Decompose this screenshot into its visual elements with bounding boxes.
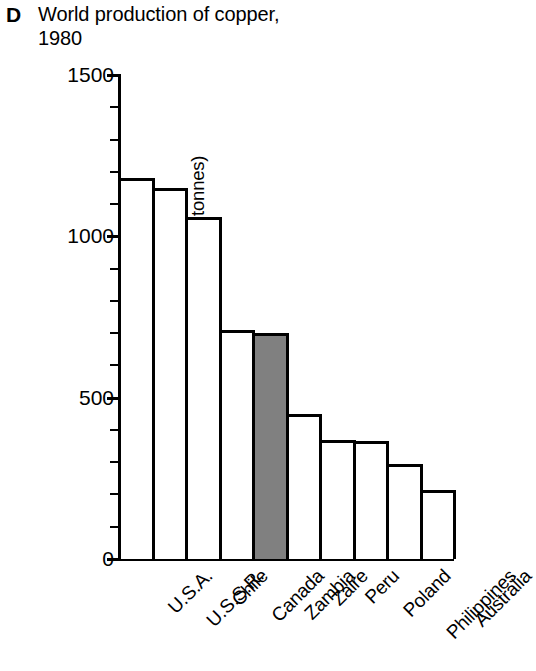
tick-mark [110,526,118,528]
bar-series [118,75,454,559]
bar-philippines [386,464,423,559]
tick-mark [110,203,118,205]
x-axis-label: Peru [361,566,402,607]
bar-australia [420,490,457,559]
tick-mark [110,300,118,302]
tick-mark [110,106,118,108]
tick-mark [110,493,118,495]
tick-mark [110,139,118,141]
bar-poland [353,441,390,559]
y-tick-label: 500 [79,387,114,408]
bar-zambia [252,333,289,559]
bar-canada [219,330,256,559]
y-tick-label: 1000 [67,225,114,246]
chart-header: D World production of copper, 1980 [0,0,462,60]
tick-mark [110,429,118,431]
bar-zaire [286,414,323,559]
bar-peru [319,440,356,559]
tick-mark [110,364,118,366]
y-tick-label: 1500 [67,64,114,85]
bar-u-s-s-r [152,188,189,559]
page-title: World production of copper, 1980 [38,3,298,50]
tick-mark [110,461,118,463]
x-axis-label: Chile [228,566,271,609]
x-axis-label: Poland [400,566,454,620]
x-axis-labels: U.S.A.U.S.S.R.ChileCanadaZambiaZairePeru… [0,562,462,671]
panel-label: D [6,4,21,25]
bar-u-s-a [118,178,155,559]
tick-mark [110,268,118,270]
bar-chile [185,217,222,559]
tick-mark [110,171,118,173]
tick-mark [110,332,118,334]
